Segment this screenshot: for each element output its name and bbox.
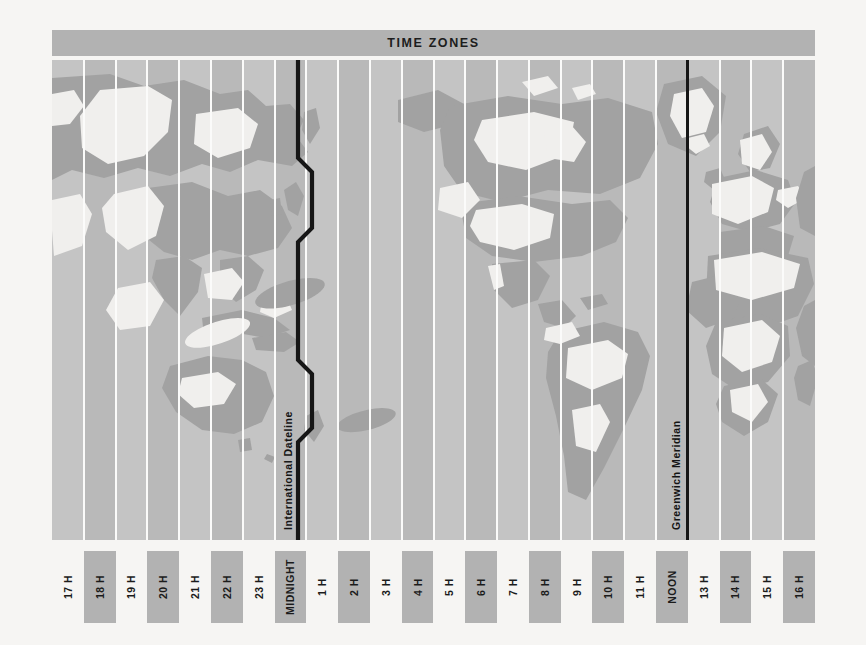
time-zone-label-text: 19 H xyxy=(125,575,137,599)
time-zone-label[interactable]: 8 H xyxy=(529,551,561,623)
time-zone-label-text: 3 H xyxy=(380,578,392,596)
time-zone-label-text: 11 H xyxy=(634,575,646,599)
international-dateline-label: International Dateline xyxy=(282,411,294,530)
time-zone-label-text: 13 H xyxy=(698,575,710,599)
time-zone-label-text: 1 H xyxy=(316,578,328,596)
page-title: TIME ZONES xyxy=(52,30,815,56)
time-zone-label[interactable]: 2 H xyxy=(338,551,370,623)
time-zone-label[interactable]: 18 H xyxy=(84,551,116,623)
time-zone-label-text: 5 H xyxy=(443,578,455,596)
time-zone-label[interactable]: 6 H xyxy=(465,551,497,623)
time-zone-label-text: 2 H xyxy=(348,578,360,596)
time-zone-label-text: 17 H xyxy=(62,575,74,599)
time-zone-label-text: 7 H xyxy=(507,578,519,596)
time-zone-label[interactable]: 19 H xyxy=(116,551,148,623)
time-zone-label[interactable]: 17 H xyxy=(52,551,84,623)
time-zone-label-text: 14 H xyxy=(730,575,742,599)
time-zone-label-text: 15 H xyxy=(761,575,773,599)
time-zone-label[interactable]: 9 H xyxy=(561,551,593,623)
time-zone-label[interactable]: 21 H xyxy=(179,551,211,623)
greenwich-meridian-line xyxy=(686,60,690,540)
time-zone-label[interactable]: 16 H xyxy=(783,551,815,623)
time-zone-label[interactable]: 23 H xyxy=(243,551,275,623)
time-zone-label-text: 20 H xyxy=(157,575,169,599)
international-dateline-line xyxy=(52,60,815,540)
time-zone-label-text: 22 H xyxy=(221,575,233,599)
time-zone-label[interactable]: 7 H xyxy=(497,551,529,623)
time-zone-label-text: 16 H xyxy=(793,575,805,599)
time-zone-label[interactable]: 5 H xyxy=(434,551,466,623)
world-map: International Dateline Greenwich Meridia… xyxy=(52,60,815,540)
time-zone-label[interactable]: 10 H xyxy=(592,551,624,623)
time-zone-label-text: 21 H xyxy=(189,575,201,599)
time-zone-label-text: MIDNIGHT xyxy=(284,559,296,615)
time-zone-label-text: NOON xyxy=(666,570,678,604)
time-zone-label-text: 6 H xyxy=(475,578,487,596)
time-zone-label[interactable]: 13 H xyxy=(688,551,720,623)
time-zone-label-text: 8 H xyxy=(539,578,551,596)
time-zone-label[interactable]: 3 H xyxy=(370,551,402,623)
time-zone-label[interactable]: 4 H xyxy=(402,551,434,623)
time-zone-label-text: 18 H xyxy=(94,575,106,599)
time-zone-label[interactable]: 15 H xyxy=(751,551,783,623)
time-zone-map-page: TIME ZONES International Dateline Greenw… xyxy=(0,0,866,645)
time-zone-label[interactable]: MIDNIGHT xyxy=(275,551,307,623)
time-zone-label[interactable]: 1 H xyxy=(306,551,338,623)
time-zone-label[interactable]: 11 H xyxy=(624,551,656,623)
time-zone-label-text: 9 H xyxy=(571,578,583,596)
time-zone-label-text: 23 H xyxy=(253,575,265,599)
time-zone-label[interactable]: NOON xyxy=(656,551,688,623)
time-zone-label-text: 10 H xyxy=(602,575,614,599)
time-zone-label-row: 17 H18 H19 H20 H21 H22 H23 HMIDNIGHT1 H2… xyxy=(52,551,815,623)
header-bar: TIME ZONES xyxy=(52,30,815,56)
greenwich-meridian-label: Greenwich Meridian xyxy=(670,420,682,530)
time-zone-label-text: 4 H xyxy=(412,578,424,596)
time-zone-label[interactable]: 14 H xyxy=(720,551,752,623)
time-zone-label[interactable]: 22 H xyxy=(211,551,243,623)
time-zone-label[interactable]: 20 H xyxy=(147,551,179,623)
